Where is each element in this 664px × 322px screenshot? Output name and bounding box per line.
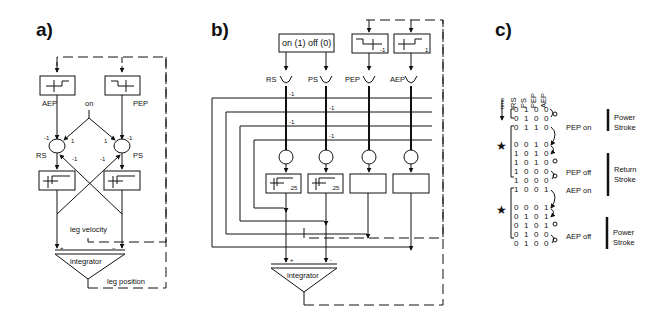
on-off-label: on (1) off (0)	[282, 38, 331, 48]
svg-text:0: 0	[514, 123, 519, 132]
svg-text:0: 0	[524, 158, 529, 167]
state-table: 0100 0100 0110 0010 1010 1010 1000 1000 …	[514, 105, 549, 248]
diagram-canvas: a) AEP PEP on -1 1 1 -1 -1 -1 RS PS	[0, 0, 664, 322]
svg-text:0: 0	[544, 114, 549, 123]
svg-text:1: 1	[514, 185, 519, 194]
ramp-icon	[43, 176, 70, 188]
aep-threshold-value: 1	[425, 47, 429, 53]
minus-sign: -	[330, 257, 332, 263]
svg-text:0: 0	[544, 105, 549, 114]
panel-b: b) on (1) off (0) -1 1 RS PS PEP AEP	[211, 19, 443, 305]
svg-text:0: 0	[514, 212, 519, 221]
svg-text:1: 1	[514, 149, 519, 158]
ps-label: PS	[133, 151, 143, 160]
svg-text:0: 0	[534, 230, 539, 239]
weight-pep-ps: -1	[127, 135, 133, 141]
weight-on-rs: 1	[71, 138, 75, 144]
aep-input-cup	[405, 76, 417, 83]
aep-neuron	[404, 150, 418, 164]
svg-text:1: 1	[514, 167, 519, 176]
ps-neuron	[114, 139, 130, 153]
svg-text:1: 1	[544, 185, 549, 194]
svg-text:0: 0	[544, 158, 549, 167]
ramp-icon	[108, 176, 135, 188]
svg-text:0: 0	[524, 176, 529, 185]
svg-text:0: 0	[524, 140, 529, 149]
svg-text:1: 1	[544, 221, 549, 230]
state-row: 0001	[514, 203, 549, 212]
svg-text:1: 1	[524, 212, 529, 221]
state-row: 1000	[514, 176, 549, 185]
weight-2: -1	[329, 105, 335, 111]
state-row: 0100	[514, 230, 549, 239]
svg-text:0: 0	[524, 149, 529, 158]
phase-label: Stroke	[614, 175, 636, 184]
svg-text:0: 0	[544, 167, 549, 176]
position-feedback-line	[57, 57, 166, 242]
svg-text:0: 0	[514, 114, 519, 123]
svg-text:0: 0	[534, 105, 539, 114]
svg-text:0: 0	[514, 239, 519, 248]
weight-4: -1	[329, 133, 335, 139]
phase-label: Stroke	[614, 123, 636, 132]
step-up-icon	[46, 80, 69, 92]
rs-input-cup	[280, 76, 292, 83]
panel-b-label: b)	[211, 19, 229, 40]
plus-sign: +	[290, 257, 294, 263]
state-row: 0100	[514, 239, 549, 248]
panel-a: a) AEP PEP on -1 1 1 -1 -1 -1 RS PS	[36, 19, 166, 288]
svg-text:1: 1	[534, 140, 539, 149]
weight-rs-ps: -1	[100, 156, 106, 162]
svg-text:0: 0	[544, 123, 549, 132]
rs-neuron	[279, 150, 293, 164]
integrator-label: integrator	[287, 271, 319, 280]
rs-neuron	[49, 139, 65, 153]
svg-text:0: 0	[524, 203, 529, 212]
state-row: 1001	[514, 185, 549, 194]
svg-text:0: 0	[534, 221, 539, 230]
event-aep-on: AEP on	[566, 186, 591, 195]
pep-output-box	[350, 174, 386, 193]
step-down-icon	[356, 39, 382, 50]
svg-text:1: 1	[524, 239, 529, 248]
state-row: 0101	[514, 212, 549, 221]
ps-input-cup	[320, 76, 332, 83]
weight-3: -1	[289, 119, 295, 125]
on-input-label: on	[85, 99, 93, 108]
svg-text:0: 0	[524, 167, 529, 176]
svg-text:0: 0	[534, 239, 539, 248]
pep-label: PEP	[133, 99, 148, 108]
integrator-label: integrator	[70, 257, 102, 266]
star-marker: ★	[496, 203, 507, 217]
svg-text:1: 1	[524, 123, 529, 132]
aep-unit-label: AEP	[390, 75, 405, 84]
panel-a-label: a)	[36, 19, 53, 40]
ps-gain-value: .25	[331, 185, 340, 191]
phase-label: Power	[613, 228, 635, 237]
svg-text:1: 1	[534, 123, 539, 132]
rs-gain-value: .25	[289, 185, 298, 191]
svg-text:0: 0	[524, 185, 529, 194]
svg-text:0: 0	[514, 230, 519, 239]
pep-neuron	[362, 150, 376, 164]
svg-text:0: 0	[534, 203, 539, 212]
svg-text:0: 0	[544, 176, 549, 185]
step-up-icon	[398, 39, 422, 50]
state-row: 0010	[514, 140, 549, 149]
svg-text:1: 1	[524, 230, 529, 239]
svg-text:0: 0	[534, 114, 539, 123]
panel-c: c) RS PS PEP AEP time ★ ★ 0100 0100 0110…	[495, 19, 637, 249]
svg-text:1: 1	[544, 203, 549, 212]
svg-text:1: 1	[514, 176, 519, 185]
svg-text:1: 1	[544, 212, 549, 221]
weight-on-ps: 1	[104, 138, 108, 144]
svg-text:0: 0	[534, 185, 539, 194]
event-aep-off: AEP off	[566, 232, 592, 241]
weight-aep-rs: -1	[44, 135, 50, 141]
svg-text:1: 1	[534, 149, 539, 158]
event-pep-off: PEP off	[566, 168, 592, 177]
svg-text:0: 0	[514, 203, 519, 212]
event-pep-on: PEP on	[566, 123, 591, 132]
state-row: 0110	[514, 123, 549, 132]
svg-text:0: 0	[534, 212, 539, 221]
